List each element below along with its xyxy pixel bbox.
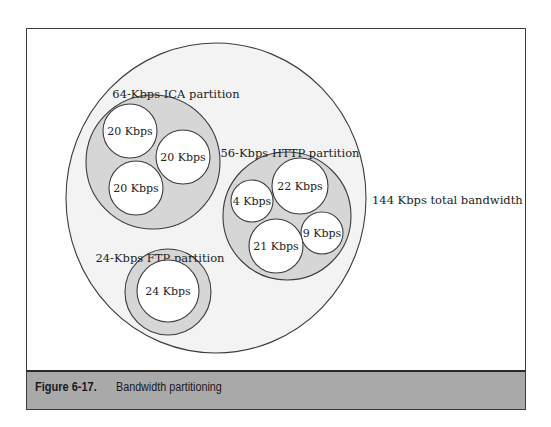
flow-label: 20 Kbps [113,182,159,195]
flow-circle-group: 22 Kbps [272,158,328,214]
flow-label: 24 Kbps [145,285,191,298]
flow-label: 22 Kbps [277,180,323,193]
bandwidth-partition-diagram: 64-Kbps ICA partition20 Kbps20 Kbps20 Kb… [0,0,551,427]
flow-circle-group: 20 Kbps [109,161,163,215]
flow-circle-group: 20 Kbps [103,104,157,158]
flow-circle-group: 24 Kbps [137,260,199,322]
flow-label: 21 Kbps [253,240,299,253]
flow-circle-group: 9 Kbps [301,212,343,254]
flow-label: 20 Kbps [160,151,206,164]
partition-label: 64-Kbps ICA partition [112,87,240,101]
flow-label: 20 Kbps [107,125,153,138]
flow-circle-group: 21 Kbps [249,219,303,273]
figure-caption-bar: Figure 6-17. Bandwidth partitioning [26,370,526,410]
flow-label: 9 Kbps [303,227,342,240]
figure-title: Bandwidth partitioning [116,380,222,394]
figure-number: Figure 6-17. [35,380,97,394]
total-bandwidth-label: 144 Kbps total bandwidth [372,193,523,207]
partition-label: 56-Kbps HTTP partition [220,146,360,160]
flow-label: 4 Kbps [233,195,272,208]
flow-circle-group: 20 Kbps [156,130,210,184]
flow-circle-group: 4 Kbps [231,180,273,222]
